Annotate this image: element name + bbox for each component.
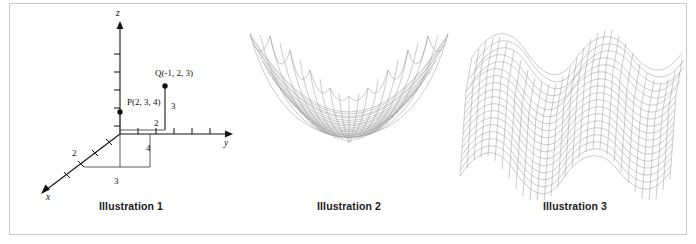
point-q-marker — [162, 83, 167, 88]
z-axis-label: z — [115, 8, 120, 18]
point-p-marker — [117, 109, 122, 114]
wave-surface-mesh — [456, 4, 688, 200]
figure-panel: z y — [0, 0, 696, 244]
point-q-label: Q(-1, 2, 3) — [155, 68, 193, 78]
wave-wireframe — [460, 30, 684, 200]
y-axis-label: y — [223, 138, 229, 148]
coordinate-axes-diagram: z y — [10, 4, 242, 200]
y-axis — [120, 128, 233, 137]
segment-label-2a: 2 — [72, 148, 77, 158]
segment-label-2b: 2 — [154, 118, 159, 128]
point-p-label: P(2, 3, 4) — [127, 97, 161, 107]
bowl-wireframe — [250, 34, 448, 143]
x-axis-label: x — [45, 192, 51, 200]
illustration-2-panel: Illustration 2 — [242, 4, 456, 236]
figure-frame: z y — [9, 3, 687, 235]
segment-label-3b: 3 — [171, 101, 176, 111]
illustration-3-caption: Illustration 3 — [456, 200, 688, 212]
x-axis — [41, 134, 120, 194]
illustration-1-caption: Illustration 1 — [10, 200, 242, 212]
segment-label-3a: 3 — [114, 176, 119, 186]
paraboloid-surface-mesh — [242, 4, 456, 200]
illustration-3-panel: Illustration 3 — [456, 4, 688, 236]
illustration-1-panel: z y — [10, 4, 242, 236]
illustration-2-caption: Illustration 2 — [242, 200, 456, 212]
segment-label-4: 4 — [146, 143, 151, 153]
z-axis — [114, 21, 123, 134]
